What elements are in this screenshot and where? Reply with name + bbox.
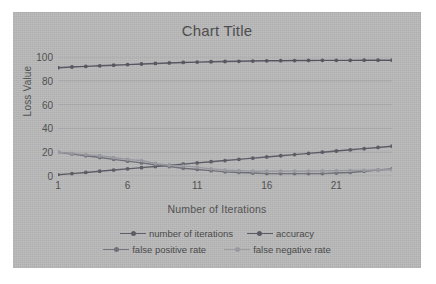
- y-tick-label: 0: [47, 171, 53, 182]
- data-point: [70, 65, 74, 69]
- data-point: [390, 58, 392, 62]
- data-point: [362, 147, 366, 151]
- data-point: [265, 155, 269, 159]
- y-axis-title: Loss Value: [22, 58, 36, 124]
- data-point: [307, 151, 311, 155]
- data-point: [195, 161, 199, 165]
- data-point: [154, 62, 158, 66]
- data-point: [321, 169, 325, 173]
- data-point: [181, 61, 185, 65]
- y-tick-label: 20: [42, 147, 53, 158]
- data-point: [112, 63, 116, 67]
- legend-item-accuracy[interactable]: accuracy: [247, 228, 314, 239]
- y-tick-label: 40: [42, 123, 53, 134]
- data-point: [251, 169, 255, 173]
- data-point: [84, 171, 88, 175]
- legend-item-false-positive-rate[interactable]: false positive rate: [103, 244, 206, 255]
- data-point: [167, 163, 171, 167]
- legend-row-2: false positive rate false negative rate: [103, 244, 331, 255]
- data-point: [112, 156, 116, 160]
- data-point: [265, 169, 269, 173]
- data-point: [348, 58, 352, 62]
- legend-label: number of iterations: [149, 228, 233, 239]
- data-point: [237, 59, 241, 63]
- data-point: [293, 59, 297, 63]
- data-point: [321, 58, 325, 62]
- data-point: [223, 159, 227, 163]
- data-point: [293, 169, 297, 173]
- data-point: [70, 151, 74, 155]
- plot-wrapper: 020406080100 16111621: [58, 57, 392, 176]
- data-point: [98, 154, 102, 158]
- legend-item-false-negative-rate[interactable]: false negative rate: [224, 244, 331, 255]
- data-point: [98, 169, 102, 173]
- legend-label: false negative rate: [253, 244, 331, 255]
- data-point: [237, 157, 241, 161]
- data-point: [140, 159, 144, 163]
- x-tick-label: 21: [331, 180, 342, 191]
- data-point: [279, 59, 283, 63]
- data-point: [140, 62, 144, 66]
- data-point: [334, 58, 338, 62]
- data-point: [334, 169, 338, 173]
- data-point: [376, 146, 380, 150]
- data-point: [126, 167, 130, 171]
- data-point: [251, 156, 255, 160]
- data-point: [237, 169, 241, 173]
- plot-area: [58, 57, 392, 176]
- y-tick-label: 80: [42, 75, 53, 86]
- data-point: [195, 60, 199, 64]
- data-point: [84, 153, 88, 157]
- legend-label: false positive rate: [132, 244, 206, 255]
- legend-marker-icon: [224, 245, 250, 254]
- y-tick-label: 60: [42, 99, 53, 110]
- legend-item-number-of-iterations[interactable]: number of iterations: [120, 228, 233, 239]
- x-tick-label: 11: [192, 180, 202, 191]
- data-point: [223, 168, 227, 172]
- x-tick-label: 1: [55, 180, 61, 191]
- chart-legend: number of iterations accuracy false posi…: [13, 228, 421, 255]
- data-point: [126, 63, 130, 67]
- data-point: [307, 169, 311, 173]
- data-point: [167, 61, 171, 65]
- data-point: [376, 58, 380, 62]
- data-point: [195, 165, 199, 169]
- data-point: [334, 149, 338, 153]
- data-point: [98, 64, 102, 68]
- legend-marker-icon: [103, 245, 129, 254]
- plot-svg: [58, 57, 392, 176]
- data-point: [112, 168, 116, 172]
- data-point: [348, 169, 352, 173]
- series-accuracy: [58, 58, 392, 69]
- x-tick-label: 16: [261, 180, 272, 191]
- data-point: [321, 150, 325, 154]
- legend-label: accuracy: [276, 228, 314, 239]
- data-point: [376, 168, 380, 172]
- chart-title: Chart Title: [13, 22, 421, 39]
- data-point: [209, 167, 213, 171]
- data-point: [279, 154, 283, 158]
- data-point: [265, 59, 269, 63]
- data-point: [362, 168, 366, 172]
- data-point: [126, 157, 130, 161]
- data-point: [209, 160, 213, 164]
- data-point: [390, 144, 392, 148]
- legend-marker-icon: [247, 229, 273, 238]
- data-point: [223, 60, 227, 64]
- data-point: [279, 169, 283, 173]
- chart-card: Chart Title Loss Value 020406080100 1611…: [13, 12, 421, 268]
- data-point: [293, 153, 297, 157]
- data-point: [58, 173, 60, 176]
- y-tick-label: 100: [36, 52, 53, 63]
- legend-row-1: number of iterations accuracy: [120, 228, 314, 239]
- data-point: [140, 166, 144, 170]
- data-point: [154, 162, 158, 166]
- data-point: [84, 65, 88, 69]
- x-tick-label: 6: [125, 180, 131, 191]
- data-point: [58, 150, 60, 154]
- x-axis-title: Number of Iterations: [13, 203, 421, 215]
- data-point: [251, 59, 255, 63]
- data-point: [58, 66, 60, 70]
- legend-marker-icon: [120, 229, 146, 238]
- data-point: [181, 164, 185, 168]
